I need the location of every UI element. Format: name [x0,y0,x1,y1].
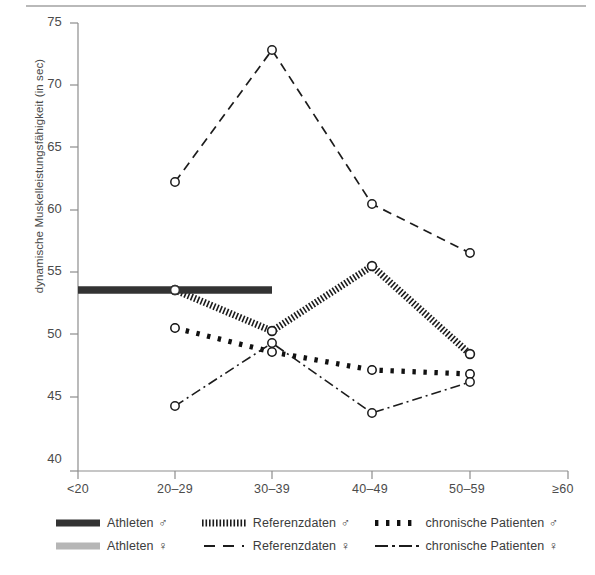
venus-symbol-icon: ♀ [341,539,350,553]
legend-swatch-thick-solid-light-icon [56,539,100,553]
legend-item-referenzdaten-male[interactable]: Referenzdaten ♂ [202,516,375,530]
legend-label-chronische-patienten-female: chronische Patienten ♀ [426,539,559,553]
legend-label-athleten-male: Athleten ♂ [107,516,168,530]
axis-lines [70,23,568,479]
legend-row-female: Athleten ♀ Referenzdaten ♀ chronische Pa… [56,539,576,562]
legend-swatch-dash-dot-icon [375,539,419,553]
mars-symbol-icon: ♂ [341,516,350,530]
legend-item-athleten-female[interactable]: Athleten ♀ [56,539,202,553]
legend-swatch-thick-solid-dark-icon [56,516,100,530]
legend-swatch-bold-dotted-icon [375,516,419,530]
plot-area [0,0,595,575]
legend-item-chronische-patienten-male[interactable]: chronische Patienten ♂ [375,516,576,530]
venus-symbol-icon: ♀ [549,539,558,553]
legend-label-chronische-patienten-male: chronische Patienten ♂ [426,516,559,530]
legend-item-referenzdaten-female[interactable]: Referenzdaten ♀ [202,539,375,553]
legend-swatch-hatched-icon [202,516,246,530]
legend-item-chronische-patienten-female[interactable]: chronische Patienten ♀ [375,539,576,553]
legend-row-male: Athleten ♂ Referenzdaten ♂ chronische Pa… [56,516,576,539]
legend-label-referenzdaten-female: Referenzdaten ♀ [253,539,350,553]
venus-symbol-icon: ♀ [158,539,167,553]
mars-symbol-icon: ♂ [549,516,558,530]
series-referenzdaten-female [171,46,474,257]
series-referenzdaten-male [171,262,475,359]
legend-label-athleten-female: Athleten ♀ [107,539,168,553]
chart-legend: Athleten ♂ Referenzdaten ♂ chronische Pa… [56,516,576,562]
chart-figure: dynamische Muskelleistungsfähigkeit (in … [0,0,595,575]
series-athleten-male [78,286,272,295]
legend-item-athleten-male[interactable]: Athleten ♂ [56,516,202,530]
mars-symbol-icon: ♂ [158,516,167,530]
legend-label-referenzdaten-male: Referenzdaten ♂ [253,516,350,530]
series-chronische-patienten-female [171,339,474,417]
series-chronische-patienten-male [171,324,474,378]
legend-swatch-dashed-icon [202,539,246,553]
